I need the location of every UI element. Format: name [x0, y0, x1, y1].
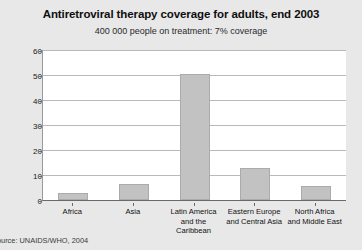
x-axis-category-line: and Middle East	[284, 217, 345, 227]
bar	[301, 186, 331, 200]
x-axis-tick-mark	[194, 203, 195, 206]
chart-title: Antiretroviral therapy coverage for adul…	[0, 8, 362, 20]
x-axis-tick-mark	[72, 203, 73, 206]
y-axis-tick-label: 50	[8, 71, 42, 80]
x-axis-category-line: Latin America	[163, 207, 224, 217]
bar	[240, 168, 270, 201]
x-axis-category-label: Latin Americaand the Caribbean	[163, 207, 224, 236]
bar	[58, 193, 88, 201]
y-axis-tick-label: 40	[8, 96, 42, 105]
y-axis-tick-label: 0	[8, 196, 42, 205]
x-axis: AfricaAsiaLatin Americaand the Caribbean…	[42, 203, 345, 233]
source-note: Source: UNAIDS/WHO, 2004	[0, 236, 88, 245]
x-axis-category-line: and the Caribbean	[163, 217, 224, 236]
x-axis-tick-mark	[254, 203, 255, 206]
x-axis-category-line: Asia	[103, 207, 164, 217]
y-axis-tick-label: 30	[8, 121, 42, 130]
bar	[119, 184, 149, 200]
y-axis-tick-label: 20	[8, 146, 42, 155]
chart-subtitle: 400 000 people on treatment: 7% coverage	[0, 26, 362, 36]
x-axis-category-line: North Africa	[284, 207, 345, 217]
x-axis-category-line: Eastern Europe	[224, 207, 285, 217]
x-axis-category-label: Africa	[42, 207, 103, 217]
x-axis-category-line: Africa	[42, 207, 103, 217]
x-axis-tick-mark	[315, 203, 316, 206]
gridline	[43, 50, 346, 51]
y-axis: 0102030405060	[0, 50, 42, 201]
y-axis-tick-label: 60	[8, 46, 42, 55]
plot-area	[42, 50, 346, 201]
x-axis-category-label: North Africaand Middle East	[284, 207, 345, 226]
chart-figure: Antiretroviral therapy coverage for adul…	[0, 0, 362, 250]
x-axis-tick-mark	[133, 203, 134, 206]
x-axis-category-label: Asia	[103, 207, 164, 217]
x-axis-category-label: Eastern Europeand Central Asia	[224, 207, 285, 226]
x-axis-category-line: and Central Asia	[224, 217, 285, 227]
y-axis-tick-label: 10	[8, 171, 42, 180]
bar	[180, 74, 210, 200]
